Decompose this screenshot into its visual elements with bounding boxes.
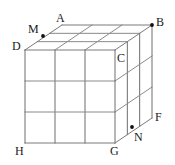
point-marker-b bbox=[150, 23, 154, 27]
point-marker-m bbox=[41, 34, 45, 38]
vertex-label-g: G bbox=[110, 145, 119, 157]
vertex-label-b: B bbox=[156, 16, 164, 28]
cube-outline bbox=[25, 25, 152, 143]
vertex-label-f: F bbox=[155, 111, 162, 123]
vertex-label-h: H bbox=[15, 145, 24, 157]
vertex-label-c: C bbox=[117, 52, 125, 64]
vertex-label-d: D bbox=[12, 40, 21, 52]
vertex-label-a: A bbox=[56, 12, 65, 24]
cube-figure: ABCDFGHMN bbox=[0, 0, 175, 165]
point-marker-n bbox=[130, 125, 134, 129]
cube-marked-points bbox=[41, 23, 154, 129]
top-grid-depth bbox=[85, 25, 122, 50]
vertex-label-m: M bbox=[28, 23, 39, 35]
cube-drawing bbox=[0, 0, 175, 165]
right-grid-horizontal bbox=[115, 87, 152, 112]
edge-CB bbox=[115, 25, 152, 50]
cube-grid-lines bbox=[25, 25, 152, 143]
top-grid-depth bbox=[55, 25, 92, 50]
vertex-label-n: N bbox=[134, 131, 143, 143]
